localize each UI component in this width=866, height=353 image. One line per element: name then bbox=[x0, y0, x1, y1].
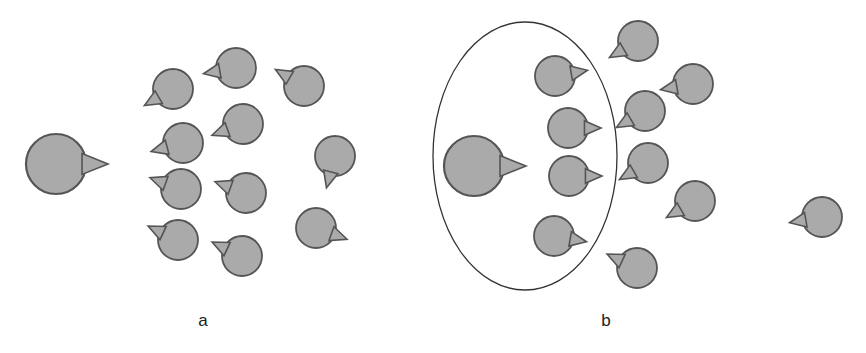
heading-arrow-icon bbox=[584, 121, 601, 136]
leader-agent bbox=[444, 136, 526, 196]
agent-body bbox=[549, 156, 589, 196]
follower-agent bbox=[150, 169, 201, 209]
heading-arrow-icon bbox=[151, 140, 169, 154]
agent-body bbox=[296, 208, 336, 248]
follower-agent bbox=[790, 197, 842, 237]
agent-body bbox=[534, 216, 574, 256]
heading-arrow-icon bbox=[569, 232, 587, 246]
heading-arrow-icon bbox=[324, 170, 338, 188]
agent-body bbox=[444, 136, 504, 196]
agent-body bbox=[26, 134, 86, 194]
follower-agent bbox=[275, 66, 324, 106]
follower-agent bbox=[296, 208, 347, 248]
panel-label-a: a bbox=[198, 311, 208, 330]
follower-agent bbox=[609, 21, 658, 61]
heading-arrow-icon bbox=[204, 64, 222, 78]
follower-agent bbox=[144, 69, 193, 109]
agent-body bbox=[315, 136, 355, 176]
panel-label-b: b bbox=[601, 311, 610, 330]
follower-agent bbox=[661, 64, 713, 104]
follower-agent bbox=[548, 108, 601, 148]
follower-agent bbox=[212, 236, 262, 276]
heading-arrow-icon bbox=[500, 156, 526, 177]
panel-a bbox=[26, 48, 355, 276]
agent-body bbox=[802, 197, 842, 237]
follower-agent bbox=[607, 248, 657, 288]
leader-agent bbox=[26, 134, 108, 194]
follower-agent bbox=[212, 104, 263, 144]
follower-agent bbox=[534, 216, 586, 256]
panel-b bbox=[433, 21, 842, 290]
agent-body bbox=[226, 173, 266, 213]
heading-arrow-icon bbox=[570, 66, 588, 80]
heading-arrow-icon bbox=[585, 169, 602, 184]
follower-agent bbox=[616, 91, 665, 131]
heading-arrow-icon bbox=[661, 80, 679, 94]
agent-body bbox=[535, 56, 575, 96]
figure-caption bbox=[110, 345, 750, 353]
follower-agent bbox=[666, 181, 715, 221]
follower-agent bbox=[535, 56, 587, 96]
figure: a b bbox=[0, 0, 866, 353]
follower-agent bbox=[549, 156, 602, 196]
agent-body bbox=[223, 104, 263, 144]
follower-agent bbox=[204, 48, 256, 88]
agent-body bbox=[548, 108, 588, 148]
follower-agent bbox=[151, 123, 203, 163]
follower-agent bbox=[148, 220, 198, 260]
follower-agent bbox=[315, 136, 355, 188]
agent-body bbox=[673, 64, 713, 104]
heading-arrow-icon bbox=[790, 213, 808, 227]
heading-arrow-icon bbox=[82, 154, 108, 175]
agent-body bbox=[161, 169, 201, 209]
follower-agent bbox=[619, 143, 668, 183]
agent-body bbox=[163, 123, 203, 163]
agent-body bbox=[216, 48, 256, 88]
follower-agent bbox=[215, 173, 266, 213]
